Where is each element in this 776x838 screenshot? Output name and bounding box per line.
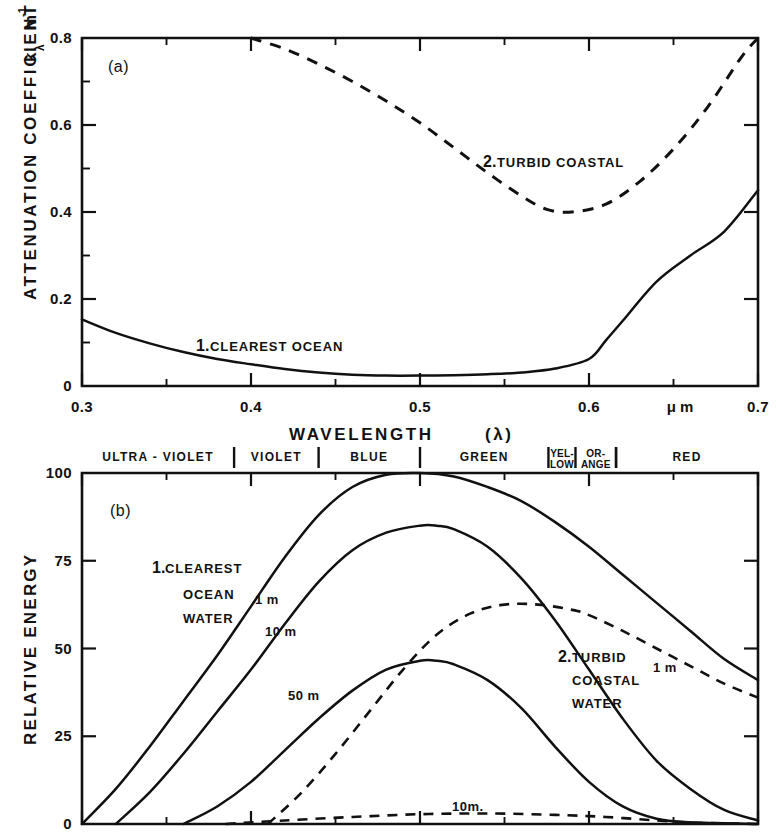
label-number-1: 1. bbox=[152, 559, 165, 576]
spectral-band-label: OR- bbox=[586, 448, 605, 459]
x-tick-label: 0.5 bbox=[409, 398, 431, 415]
label-text-clearest: CLEAREST bbox=[165, 561, 242, 576]
turbid-depth-label-10m: 10m. bbox=[452, 799, 484, 814]
yaxis-unit-lambda: λ bbox=[33, 44, 47, 51]
depth-label-10m: 10 m bbox=[265, 624, 297, 639]
spectral-band-label: YEL- bbox=[550, 448, 574, 459]
y-tick-label: 50 bbox=[55, 640, 73, 657]
spectral-band-strip: ULTRA - VIOLETVIOLETBLUEGREENYEL-LOWOR-A… bbox=[102, 447, 701, 470]
label-number-1: 1. bbox=[196, 337, 209, 354]
y-tick-label: 0.4 bbox=[50, 203, 72, 220]
xaxis-unit-micrometre: μ m bbox=[667, 398, 694, 415]
ocean-attenuation-figure: 00.20.40.60.80.30.40.50.60.7 (a) ATTENUA… bbox=[0, 0, 776, 838]
label-text-clearest-ocean: CLEAREST OCEAN bbox=[210, 339, 343, 354]
xaxis-symbol: (λ) bbox=[485, 425, 514, 444]
panel-a-axes bbox=[82, 38, 758, 386]
label-text-water: WATER bbox=[183, 611, 233, 626]
depth-label-1m: 1 m bbox=[255, 592, 279, 607]
spectral-band-label: BLUE bbox=[350, 450, 388, 464]
figure-container: 00.20.40.60.80.30.40.50.60.7 (a) ATTENUA… bbox=[0, 0, 776, 838]
spectral-band-label: LOW bbox=[550, 459, 574, 470]
label-text-turbid-coastal: TURBID COASTAL bbox=[497, 155, 624, 170]
panel-a-ticks bbox=[82, 38, 758, 386]
y-tick-label: 0.8 bbox=[50, 29, 72, 46]
label-text-coastal: COASTAL bbox=[572, 673, 640, 688]
panel-b: 0255075100 (b) RELATIVE ENERGY 1. CLEARE… bbox=[21, 464, 758, 832]
label-number-2: 2. bbox=[558, 648, 571, 665]
panel-b-curves bbox=[82, 473, 758, 824]
panel-b-tag: (b) bbox=[110, 502, 131, 519]
y-tick-label: 0.2 bbox=[50, 290, 72, 307]
xaxis-title-group: WAVELENGTH (λ) bbox=[289, 425, 514, 444]
spectral-band-label: VIOLET bbox=[251, 450, 302, 464]
xaxis-title: WAVELENGTH bbox=[289, 425, 434, 444]
x-tick-label: 0.7 bbox=[747, 398, 769, 415]
label-number-2: 2. bbox=[483, 153, 496, 170]
y-tick-label: 100 bbox=[46, 464, 72, 481]
series-curve bbox=[226, 813, 758, 824]
turbid-depth-label-1m: 1 m bbox=[653, 660, 677, 675]
spectral-band-label: ANGE bbox=[581, 459, 611, 470]
spectral-band-label: RED bbox=[672, 450, 701, 464]
panel-a-curves bbox=[82, 38, 758, 376]
y-tick-label: 75 bbox=[55, 552, 73, 569]
y-tick-label: 0 bbox=[63, 815, 72, 832]
panel-b-tick-labels: 0255075100 bbox=[46, 464, 72, 832]
yaxis-unit-k: k bbox=[21, 52, 40, 62]
label-text-ocean: OCEAN bbox=[183, 587, 234, 602]
panel-b-clearest-ocean-label: 1. CLEAREST OCEAN WATER bbox=[152, 559, 242, 626]
y-tick-label: 0 bbox=[63, 377, 72, 394]
panel-b-yaxis-title: RELATIVE ENERGY bbox=[21, 553, 40, 745]
series-curve bbox=[268, 604, 758, 824]
panel-b-turbid-coastal-label: 2. TURBID COASTAL WATER bbox=[558, 648, 640, 711]
x-tick-label: 0.6 bbox=[578, 398, 600, 415]
label-text-water: WATER bbox=[572, 696, 622, 711]
panel-a-tag: (a) bbox=[108, 58, 129, 75]
x-tick-label: 0.4 bbox=[240, 398, 262, 415]
panel-a-clearest-ocean-label: 1. CLEAREST OCEAN bbox=[196, 337, 343, 354]
yaxis-unit-exponent: -1 bbox=[16, 7, 28, 17]
y-tick-label: 0.6 bbox=[50, 116, 72, 133]
panel-a-tick-labels: 00.20.40.60.80.30.40.50.60.7 bbox=[50, 29, 769, 415]
label-text-turbid: TURBID bbox=[572, 650, 627, 665]
panel-a: 00.20.40.60.80.30.40.50.60.7 (a) ATTENUA… bbox=[16, 3, 769, 415]
depth-label-50m: 50 m bbox=[288, 688, 320, 703]
x-tick-label: 0.3 bbox=[71, 398, 93, 415]
panel-a-frame bbox=[82, 38, 758, 386]
panel-a-turbid-coastal-label: 2. TURBID COASTAL bbox=[483, 153, 624, 170]
spectral-band-label: GREEN bbox=[460, 450, 509, 464]
series-curve bbox=[251, 38, 758, 212]
y-tick-label: 25 bbox=[55, 727, 73, 744]
spectral-band-label: ULTRA - VIOLET bbox=[102, 450, 214, 464]
series-curve bbox=[82, 190, 758, 375]
